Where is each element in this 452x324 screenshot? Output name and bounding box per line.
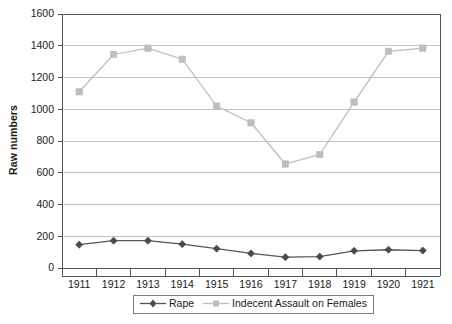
x-tick-label: 1915 [205, 278, 229, 290]
x-tick-label: 1921 [411, 278, 435, 290]
x-tick-label: 1912 [102, 278, 126, 290]
legend-item-indecent-assault[interactable]: Indecent Assault on Females [203, 298, 367, 310]
line-chart: Raw numbers 0200400600800100012001400160… [0, 0, 452, 324]
y-tick-label: 1000 [31, 103, 55, 115]
x-tick-label: 1914 [171, 278, 195, 290]
data-point-marker [350, 247, 357, 254]
x-tick-label: 1920 [377, 278, 401, 290]
y-tick-label: 0 [48, 261, 54, 273]
y-tick-label: 1400 [31, 39, 55, 51]
y-tick-label: 200 [36, 230, 54, 242]
y-tick-label: 800 [36, 134, 54, 146]
data-point-marker [282, 254, 289, 261]
data-point-marker [145, 45, 151, 51]
data-point-marker [248, 120, 254, 126]
x-tick-label: 1913 [136, 278, 160, 290]
x-tick-label: 1911 [68, 278, 91, 290]
data-point-marker [110, 51, 116, 57]
data-point-marker [179, 56, 185, 62]
legend-label-indecent-assault: Indecent Assault on Females [232, 298, 367, 310]
data-point-marker [144, 237, 151, 244]
y-tick-label: 1600 [31, 7, 55, 19]
data-point-marker [316, 253, 323, 260]
y-tick-label: 600 [36, 166, 54, 178]
data-point-marker [213, 245, 220, 252]
data-point-marker [76, 89, 82, 95]
legend-label-rape: Rape [169, 298, 194, 310]
data-point-marker [385, 246, 392, 253]
data-point-marker [76, 241, 83, 248]
x-tick-label: 1916 [239, 278, 263, 290]
data-point-marker [179, 241, 186, 248]
data-point-marker [351, 99, 357, 105]
data-point-marker [419, 247, 426, 254]
x-tick-label: 1917 [274, 278, 298, 290]
series-line-indecent-assault [79, 48, 423, 164]
data-point-marker [385, 48, 391, 54]
y-tick-label: 1200 [31, 71, 55, 83]
x-tick-label: 1919 [342, 278, 366, 290]
data-point-marker [247, 250, 254, 257]
data-point-marker [317, 151, 323, 157]
data-point-marker [282, 161, 288, 167]
square-marker-icon [203, 298, 229, 309]
y-tick-label: 400 [36, 198, 54, 210]
plot-area: 0200400600800100012001400160019111912191… [0, 0, 452, 324]
x-tick-label: 1918 [308, 278, 332, 290]
chart-legend: Rape Indecent Assault on Females [133, 295, 374, 314]
data-point-marker [213, 103, 219, 109]
data-point-marker [420, 45, 426, 51]
data-point-marker [110, 237, 117, 244]
diamond-marker-icon [140, 298, 166, 309]
legend-item-rape[interactable]: Rape [140, 298, 194, 310]
